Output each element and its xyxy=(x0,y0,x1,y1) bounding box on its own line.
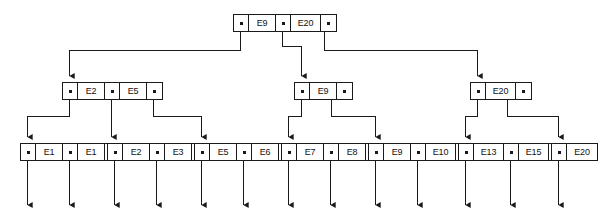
tree-node-internal-middle: E9 xyxy=(294,82,353,100)
tree-node-leaf-3: E5E6 xyxy=(194,143,295,161)
pointer-cell xyxy=(295,83,310,99)
key-cell: E1 xyxy=(36,144,63,160)
pointer-cell xyxy=(411,144,426,160)
key-cell: E5 xyxy=(210,144,237,160)
key-cell: E20 xyxy=(291,15,321,31)
key-cell: E2 xyxy=(123,144,150,160)
pointer-cell xyxy=(63,83,78,99)
pointer-cell xyxy=(21,144,36,160)
tree-node-leaf-4: E7E8 xyxy=(281,143,382,161)
pointer-cell xyxy=(108,144,123,160)
key-cell: E9 xyxy=(310,83,337,99)
key-cell: E1 xyxy=(78,144,105,160)
edge-internal-right-to-leaf-7 xyxy=(508,100,559,137)
key-cell: E7 xyxy=(297,144,324,160)
edge-root-to-internal-right xyxy=(325,32,478,76)
tree-node-internal-right: E20 xyxy=(470,82,532,100)
pointer-cell xyxy=(150,144,165,160)
btree-diagram: E9E20E2E5E9E20E1E1E2E3E5E6E7E8E9E10E13E1… xyxy=(0,0,607,223)
tree-node-leaf-1: E1E1 xyxy=(20,143,121,161)
pointer-cell xyxy=(147,83,162,99)
pointer-cell xyxy=(105,83,120,99)
pointer-cell xyxy=(63,144,78,160)
pointer-cell xyxy=(516,83,531,99)
pointer-cell xyxy=(324,144,339,160)
key-cell: E5 xyxy=(120,83,147,99)
key-cell: E13 xyxy=(474,144,504,160)
key-cell: E2 xyxy=(78,83,105,99)
tree-node-leaf-7: E20 xyxy=(551,143,598,161)
pointer-cell xyxy=(504,144,519,160)
pointer-cell xyxy=(459,144,474,160)
edge-internal-middle-to-leaf-4 xyxy=(289,100,302,137)
key-cell: E9 xyxy=(249,15,276,31)
edge-internal-middle-to-leaf-5 xyxy=(332,100,376,137)
pointer-cell xyxy=(282,144,297,160)
edge-internal-right-to-leaf-6 xyxy=(466,100,478,137)
pointer-cell xyxy=(337,83,352,99)
connector-edges xyxy=(0,0,607,223)
key-cell: E3 xyxy=(165,144,192,160)
tree-node-leaf-2: E2E3 xyxy=(107,143,208,161)
key-cell: E10 xyxy=(426,144,456,160)
pointer-cell xyxy=(237,144,252,160)
edge-internal-left-to-leaf-3 xyxy=(154,100,202,137)
key-cell: E20 xyxy=(486,83,516,99)
pointer-cell xyxy=(369,144,384,160)
edge-root-to-internal-left xyxy=(70,32,241,76)
key-cell: E9 xyxy=(384,144,411,160)
edge-internal-left-to-leaf-1 xyxy=(28,100,70,137)
key-cell: E6 xyxy=(252,144,279,160)
tree-node-internal-left: E2E5 xyxy=(62,82,163,100)
tree-node-leaf-6: E13E15 xyxy=(458,143,565,161)
tree-node-root: E9E20 xyxy=(233,14,337,32)
pointer-cell xyxy=(276,15,291,31)
tree-node-leaf-5: E9E10 xyxy=(368,143,472,161)
pointer-cell xyxy=(321,15,336,31)
pointer-cell xyxy=(552,144,567,160)
edge-root-to-internal-middle xyxy=(283,32,302,76)
pointer-cell xyxy=(471,83,486,99)
key-cell: E20 xyxy=(567,144,597,160)
pointer-cell xyxy=(234,15,249,31)
key-cell: E8 xyxy=(339,144,366,160)
key-cell: E15 xyxy=(519,144,549,160)
pointer-cell xyxy=(195,144,210,160)
